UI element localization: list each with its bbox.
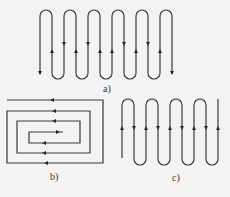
arrow-left-icon [52,119,56,123]
arrow-left-icon [50,98,54,102]
arrow-down-icon [156,126,160,130]
panel-b-path [7,100,103,163]
arrow-left-icon [52,109,56,113]
panel-b-label: b) [50,171,58,183]
panel-c-label: c) [172,172,180,184]
arrow-down-icon [122,42,126,46]
arrow-up-icon [74,49,78,53]
panel-c: c) [120,99,220,184]
arrow-left-icon [44,161,48,165]
arrow-down-icon [62,42,66,46]
arrow-right-icon [56,130,60,134]
panel-a: a) [38,10,174,95]
panel-c-path [122,99,218,165]
arrow-down-icon [132,126,136,130]
arrow-up-icon [158,49,162,53]
arrow-down-icon [204,126,208,130]
panel-a-label: a) [103,83,111,95]
arrow-up-icon [192,126,196,130]
arrow-up-icon [168,126,172,130]
arrow-up-icon [50,49,54,53]
arrow-down-icon [146,42,150,46]
arrow-down-icon [38,71,42,75]
arrow-up-icon [216,126,220,130]
arrow-up-icon [120,126,124,130]
arrow-down-icon [86,42,90,46]
panel-b: b) [7,98,103,183]
arrow-up-icon [110,49,114,53]
arrow-up-icon [98,49,102,53]
arrow-left-icon [42,151,46,155]
arrow-left-icon [42,141,46,145]
panel-a-path [40,10,172,79]
arrow-down-icon [170,71,174,75]
arrow-up-icon [144,126,148,130]
arrow-down-icon [180,126,184,130]
arrow-up-icon [134,49,138,53]
toolpath-figure: a) b) c) [0,0,230,197]
